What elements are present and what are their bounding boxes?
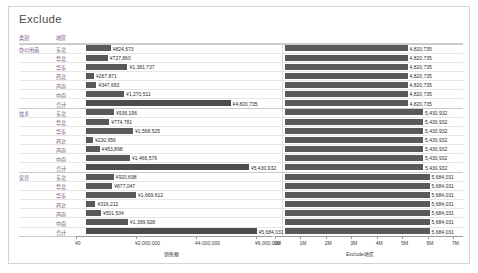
exclude-axis-tick-label: 2M xyxy=(325,240,332,246)
row-divider xyxy=(19,126,463,127)
sales-bar[interactable] xyxy=(86,100,231,106)
exclude-region-bar[interactable] xyxy=(285,201,430,207)
exclude-region-value-label: 5,430,932 xyxy=(425,110,447,116)
exclude-axis-tick xyxy=(377,236,378,239)
sales-value-label: ¥1,466,576 xyxy=(132,155,157,161)
exclude-axis-tick-label: 6M xyxy=(427,240,434,246)
row-divider xyxy=(19,227,463,228)
sales-bar[interactable] xyxy=(86,119,109,125)
exclude-region-bar[interactable] xyxy=(285,100,408,106)
sales-bar[interactable] xyxy=(86,183,112,189)
sales-bar[interactable] xyxy=(86,91,124,97)
chart-grid: ¥824,673¥727,860¥1,381,737¥267,871¥347,6… xyxy=(19,44,463,236)
exclude-axis-tick xyxy=(428,236,429,239)
sales-value-label: ¥1,399,928 xyxy=(130,219,155,225)
sales-value-label: ¥230,956 xyxy=(95,137,116,143)
exclude-region-bar[interactable] xyxy=(285,64,408,70)
sales-bar[interactable] xyxy=(86,192,136,198)
exclude-axis-tick-label: 5M xyxy=(401,240,408,246)
exclude-axis-line xyxy=(275,236,463,237)
sales-axis-tick-label: ¥4,000,000 xyxy=(195,240,220,246)
exclude-region-bar[interactable] xyxy=(285,192,430,198)
sales-value-label: ¥316,212 xyxy=(97,201,118,207)
exclude-region-panel: 4,820,7354,820,7354,820,7354,820,7354,82… xyxy=(285,44,463,236)
exclude-axis-title: Exclude地区 xyxy=(346,250,374,257)
sales-axis-tick-label: ¥0 xyxy=(75,240,81,246)
row-divider xyxy=(19,62,463,63)
exclude-axis-tick xyxy=(402,236,403,239)
exclude-region-value-label: 4,820,735 xyxy=(410,73,432,79)
exclude-region-value-label: 4,820,735 xyxy=(410,55,432,61)
row-divider xyxy=(19,190,463,191)
sales-value-label: ¥347,693 xyxy=(98,82,119,88)
exclude-axis-tick-label: 4M xyxy=(376,240,383,246)
sales-panel: ¥824,673¥727,860¥1,381,737¥267,871¥347,6… xyxy=(86,44,281,236)
exclude-region-value-label: 4,820,735 xyxy=(410,82,432,88)
sales-bar[interactable] xyxy=(86,155,130,161)
sales-bar[interactable] xyxy=(86,228,257,234)
sales-value-label: ¥877,047 xyxy=(114,183,135,189)
sales-bar[interactable] xyxy=(86,45,111,51)
sales-bar[interactable] xyxy=(86,137,93,143)
exclude-region-bar[interactable] xyxy=(285,128,423,134)
sales-value-label: ¥501,534 xyxy=(103,210,124,216)
exclude-axis-tick-label: 7M xyxy=(452,240,459,246)
exclude-region-value-label: 5,430,932 xyxy=(425,137,447,143)
exclude-region-bar[interactable] xyxy=(285,45,408,51)
sales-axis-tick xyxy=(76,236,77,239)
sales-bar[interactable] xyxy=(86,55,108,61)
exclude-region-bar[interactable] xyxy=(285,219,430,225)
exclude-region-value-label: 4,820,735 xyxy=(410,64,432,70)
exclude-axis-tick xyxy=(275,236,276,239)
sales-value-label: ¥727,860 xyxy=(110,55,131,61)
exclude-region-bar[interactable] xyxy=(285,119,423,125)
sales-bar[interactable] xyxy=(86,64,127,70)
sales-bar[interactable] xyxy=(86,210,101,216)
sales-value-label: ¥824,673 xyxy=(113,46,134,52)
exclude-region-bar[interactable] xyxy=(285,146,423,152)
sales-value-label: ¥920,698 xyxy=(116,174,137,180)
exclude-region-bar[interactable] xyxy=(285,164,423,170)
exclude-region-value-label: 5,684,031 xyxy=(432,174,454,180)
exclude-region-value-label: 4,820,735 xyxy=(410,46,432,52)
exclude-region-bar[interactable] xyxy=(285,183,430,189)
sales-bar[interactable] xyxy=(86,82,96,88)
row-divider xyxy=(19,217,463,218)
sales-bar[interactable] xyxy=(86,128,133,134)
sales-bar[interactable] xyxy=(86,201,95,207)
exclude-region-bar[interactable] xyxy=(285,174,430,180)
sales-bar[interactable] xyxy=(86,109,114,115)
sales-bar[interactable] xyxy=(86,164,249,170)
exclude-axis-tick-label: 1M xyxy=(299,240,306,246)
group-divider xyxy=(19,172,463,173)
sales-bar[interactable] xyxy=(86,219,128,225)
exclude-axis-tick xyxy=(300,236,301,239)
exclude-axis-tick-label: 0M xyxy=(274,240,281,246)
sales-bar[interactable] xyxy=(86,73,94,79)
page-title: Exclude xyxy=(19,13,62,25)
exclude-region-bar[interactable] xyxy=(285,109,423,115)
exclude-region-bar[interactable] xyxy=(285,210,430,216)
sales-bar[interactable] xyxy=(86,174,114,180)
exclude-region-bar[interactable] xyxy=(285,228,430,234)
exclude-region-value-label: 5,684,031 xyxy=(432,201,454,207)
exclude-region-value-label: 5,684,031 xyxy=(432,210,454,216)
exclude-region-value-label: 5,430,932 xyxy=(425,119,447,125)
row-divider xyxy=(19,89,463,90)
exclude-region-value-label: 5,430,932 xyxy=(425,165,447,171)
exclude-region-bar[interactable] xyxy=(285,73,408,79)
sales-bar[interactable] xyxy=(86,146,100,152)
exclude-region-bar[interactable] xyxy=(285,82,408,88)
exclude-region-value-label: 4,820,735 xyxy=(410,91,432,97)
exclude-region-bar[interactable] xyxy=(285,91,408,97)
sales-value-label: ¥936,196 xyxy=(116,110,137,116)
exclude-region-value-label: 5,684,031 xyxy=(432,192,454,198)
sales-axis-tick-label: ¥2,000,000 xyxy=(135,240,160,246)
exclude-region-value-label: 4,820,735 xyxy=(410,101,432,107)
exclude-region-bar[interactable] xyxy=(285,155,423,161)
sales-value-label: ¥774,781 xyxy=(111,119,132,125)
exclude-region-bar[interactable] xyxy=(285,55,408,61)
sales-value-label: ¥1,270,511 xyxy=(126,91,151,97)
sales-axis-tick xyxy=(196,236,197,239)
exclude-region-bar[interactable] xyxy=(285,137,423,143)
